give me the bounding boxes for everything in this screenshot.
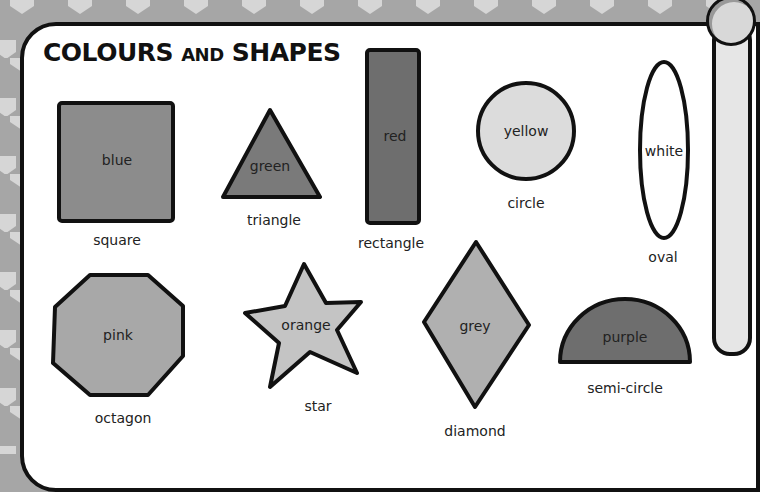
shape-label-octagon: octagon	[95, 410, 152, 426]
color-label-purple: purple	[603, 329, 648, 345]
shape-label-rectangle: rectangle	[358, 235, 424, 251]
shape-label-triangle: triangle	[247, 212, 301, 228]
shape-label-oval: oval	[648, 249, 677, 265]
shape-label-square: square	[93, 232, 141, 248]
triangle-shape	[223, 110, 320, 197]
shape-label-diamond: diamond	[444, 423, 505, 439]
color-label-orange: orange	[281, 317, 330, 333]
color-label-yellow: yellow	[504, 123, 549, 139]
color-label-grey: grey	[459, 318, 490, 334]
color-label-green: green	[250, 158, 290, 174]
shape-label-semi-circle: semi-circle	[587, 380, 663, 396]
shape-label-circle: circle	[507, 195, 544, 211]
shape-label-star: star	[304, 398, 331, 414]
color-label-red: red	[384, 128, 407, 144]
color-label-blue: blue	[102, 152, 132, 168]
color-label-pink: pink	[103, 327, 133, 343]
color-label-white: white	[645, 143, 683, 159]
